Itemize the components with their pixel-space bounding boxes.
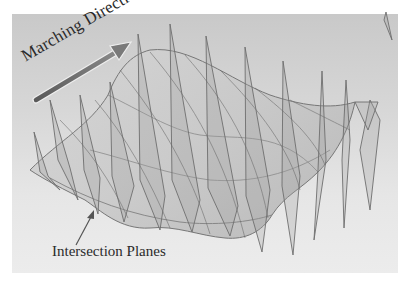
intersection-planes-label: Intersection Planes xyxy=(52,243,166,260)
intersection-planes-pointer xyxy=(76,210,94,245)
